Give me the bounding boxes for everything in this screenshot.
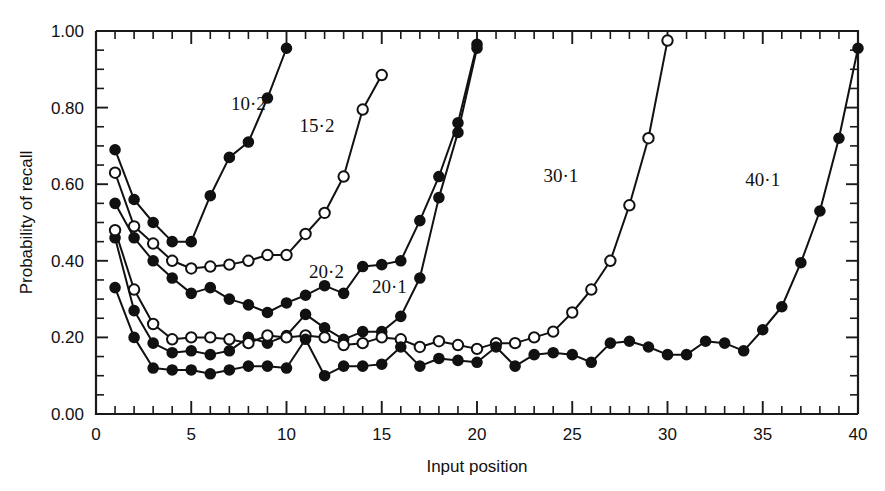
data-point — [243, 137, 253, 147]
data-point — [224, 152, 234, 162]
data-point — [358, 338, 368, 348]
data-point — [548, 348, 558, 358]
data-point — [358, 361, 368, 371]
data-point — [701, 336, 711, 346]
data-point — [262, 250, 272, 260]
data-point — [205, 191, 215, 201]
data-point — [396, 256, 406, 266]
data-point — [167, 237, 177, 247]
data-point — [339, 288, 349, 298]
data-point — [320, 371, 330, 381]
data-point — [548, 326, 558, 336]
data-point — [186, 332, 196, 342]
data-point — [110, 145, 120, 155]
y-ticklabel: 0.20 — [51, 328, 84, 347]
data-point — [377, 70, 387, 80]
data-point — [129, 284, 139, 294]
data-point — [453, 128, 463, 138]
x-ticklabel: 30 — [658, 425, 677, 444]
data-point — [148, 218, 158, 228]
y-ticklabel: 0.00 — [51, 405, 84, 424]
data-point — [301, 290, 311, 300]
data-point — [777, 302, 787, 312]
data-point — [148, 338, 158, 348]
data-point — [434, 353, 444, 363]
data-point — [434, 336, 444, 346]
data-point — [243, 256, 253, 266]
data-point — [682, 350, 692, 360]
data-point — [472, 357, 482, 367]
curve-label: 40·1 — [745, 169, 780, 190]
data-point — [377, 359, 387, 369]
data-point — [319, 332, 329, 342]
data-point — [415, 361, 425, 371]
data-point — [358, 327, 368, 337]
chart-background — [0, 0, 885, 491]
data-point — [186, 237, 196, 247]
data-point — [186, 365, 196, 375]
data-point — [815, 206, 825, 216]
data-point — [110, 168, 120, 178]
data-point — [262, 361, 272, 371]
x-ticklabel: 25 — [563, 425, 582, 444]
data-point — [662, 35, 672, 45]
data-point — [586, 357, 596, 367]
data-point — [243, 300, 253, 310]
x-axis-title: Input position — [426, 457, 527, 476]
data-point — [186, 288, 196, 298]
curve-label: 15·2 — [300, 115, 335, 136]
data-point — [396, 342, 406, 352]
data-point — [586, 284, 596, 294]
data-point — [434, 172, 444, 182]
data-point — [167, 348, 177, 358]
y-ticklabel: 0.40 — [51, 252, 84, 271]
data-point — [167, 334, 177, 344]
data-point — [148, 319, 158, 329]
data-point — [415, 342, 425, 352]
data-point — [758, 325, 768, 335]
data-point — [167, 273, 177, 283]
data-point — [281, 250, 291, 260]
data-point — [415, 273, 425, 283]
data-point — [834, 133, 844, 143]
x-ticklabel: 10 — [277, 425, 296, 444]
data-point — [148, 363, 158, 373]
data-point — [167, 256, 177, 266]
data-point — [529, 350, 539, 360]
data-point — [205, 332, 215, 342]
data-point — [796, 258, 806, 268]
data-point — [186, 263, 196, 273]
data-point — [643, 342, 653, 352]
data-point — [643, 133, 653, 143]
data-point — [300, 229, 310, 239]
curve-label: 20·2 — [309, 261, 344, 282]
data-point — [129, 332, 139, 342]
data-point — [282, 298, 292, 308]
data-point — [663, 350, 673, 360]
data-point — [491, 342, 501, 352]
data-point — [510, 361, 520, 371]
data-point — [358, 104, 368, 114]
data-point — [148, 256, 158, 266]
data-point — [110, 198, 120, 208]
data-point — [453, 340, 463, 350]
data-point — [338, 171, 348, 181]
data-point — [624, 200, 634, 210]
curve-label: 20·1 — [372, 276, 407, 297]
data-point — [529, 332, 539, 342]
x-ticklabel: 20 — [468, 425, 487, 444]
data-point — [853, 43, 863, 53]
data-point — [224, 334, 234, 344]
data-point — [129, 306, 139, 316]
data-point — [224, 365, 234, 375]
data-point — [224, 294, 234, 304]
data-point — [320, 281, 330, 291]
data-point — [205, 369, 215, 379]
data-point — [110, 225, 120, 235]
data-point — [605, 338, 615, 348]
x-ticklabel: 15 — [372, 425, 391, 444]
data-point — [205, 283, 215, 293]
data-point — [377, 260, 387, 270]
data-point — [262, 330, 272, 340]
data-point — [224, 259, 234, 269]
